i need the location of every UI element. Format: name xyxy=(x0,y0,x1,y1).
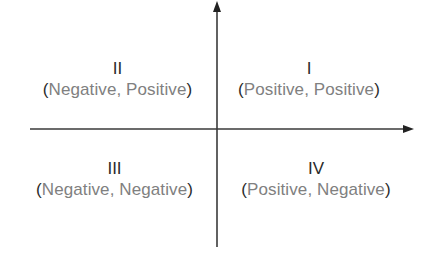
separator: , xyxy=(110,180,120,199)
quadrant-sign-pair: (Positive, Negative) xyxy=(221,181,411,198)
x-sign: Positive xyxy=(244,80,304,99)
separator: , xyxy=(304,80,314,99)
quadrant-iii: III (Negative, Negative) xyxy=(14,160,215,198)
coordinate-axes xyxy=(0,0,430,257)
x-axis xyxy=(30,125,414,133)
quadrant-sign-pair: (Negative, Positive) xyxy=(20,81,215,98)
quadrant-ii: II (Negative, Positive) xyxy=(20,60,215,98)
x-sign: Negative xyxy=(42,180,110,199)
quadrant-sign-pair: (Negative, Negative) xyxy=(14,181,215,198)
close-paren: ) xyxy=(187,180,193,199)
y-sign: Positive xyxy=(314,80,374,99)
y-axis xyxy=(213,1,221,247)
quadrant-sign-pair: (Positive, Positive) xyxy=(220,81,398,98)
close-paren: ) xyxy=(385,180,391,199)
separator: , xyxy=(116,80,126,99)
quadrant-numeral: IV xyxy=(221,160,411,177)
quadrant-i: I (Positive, Positive) xyxy=(220,60,398,98)
close-paren: ) xyxy=(374,80,380,99)
quadrant-numeral: I xyxy=(220,60,398,77)
x-sign: Negative xyxy=(49,80,117,99)
y-sign: Negative xyxy=(317,180,385,199)
quadrant-iv: IV (Positive, Negative) xyxy=(221,160,411,198)
y-axis-arrow-icon xyxy=(213,1,221,12)
quadrant-numeral: III xyxy=(14,160,215,177)
separator: , xyxy=(307,180,317,199)
x-sign: Positive xyxy=(247,180,307,199)
x-axis-arrow-icon xyxy=(403,125,414,133)
close-paren: ) xyxy=(186,80,192,99)
quadrant-numeral: II xyxy=(20,60,215,77)
y-sign: Negative xyxy=(119,180,187,199)
y-sign: Positive xyxy=(126,80,186,99)
